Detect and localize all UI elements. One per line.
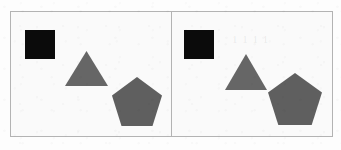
left-pentagon-shape[interactable]	[112, 77, 162, 126]
left-square-shape[interactable]	[25, 30, 55, 59]
figure-frame: 1 1 1 1	[10, 11, 333, 137]
left-triangle-shape[interactable]	[65, 51, 108, 86]
panel-right-watermark: 1 1 1 1	[232, 33, 269, 45]
right-triangle-shape[interactable]	[225, 54, 267, 90]
right-square-shape[interactable]	[184, 30, 214, 59]
right-pentagon-shape[interactable]	[268, 73, 322, 125]
panel-right[interactable]: 1 1 1 1	[172, 12, 332, 136]
panel-left[interactable]	[11, 12, 172, 136]
